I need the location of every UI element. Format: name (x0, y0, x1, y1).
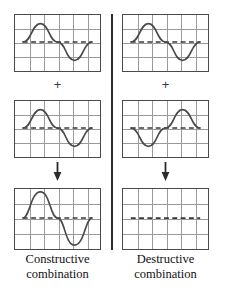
caption-line-1: Constructive (26, 252, 90, 266)
operator-arrow-down (6, 158, 109, 188)
wave-superposition-figure: + (0, 0, 225, 296)
caption-line-2: combination (114, 267, 217, 282)
wave-curve (123, 101, 208, 157)
caption-line-1: Destructive (137, 252, 195, 266)
column-destructive: + (114, 0, 217, 296)
panel-constructive-wave-b (14, 100, 101, 158)
panel-destructive-wave-sum (122, 188, 209, 250)
panel-destructive-wave-a (122, 14, 209, 72)
panel-constructive-wave-a (14, 14, 101, 72)
arrow-down-icon (160, 162, 171, 182)
panel-stack: + (6, 14, 109, 250)
caption-constructive: Constructive combination (6, 252, 109, 282)
wave-curve (123, 15, 208, 71)
operator-plus: + (114, 72, 217, 100)
panel-stack: + (114, 14, 217, 250)
wave-curve (15, 189, 100, 249)
panel-destructive-wave-b (122, 100, 209, 158)
arrow-down-icon (52, 162, 63, 182)
caption-line-2: combination (6, 267, 109, 282)
caption-destructive: Destructive combination (114, 252, 217, 282)
operator-plus: + (6, 72, 109, 100)
wave-curve (123, 189, 208, 249)
panel-constructive-wave-sum (14, 188, 101, 250)
operator-arrow-down (114, 158, 217, 188)
column-divider (111, 14, 113, 250)
column-constructive: + (6, 0, 109, 296)
wave-curve (15, 101, 100, 157)
wave-curve (15, 15, 100, 71)
